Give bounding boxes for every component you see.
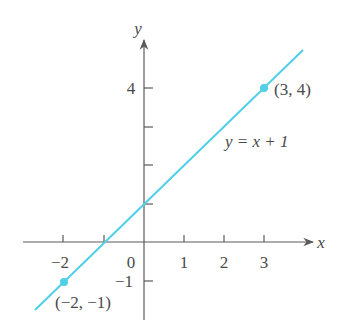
y-tick-label-4: 4: [127, 79, 136, 98]
x-tick-label-1: 1: [180, 253, 189, 272]
x-axis-label: x: [316, 233, 325, 252]
y-axis-label: y: [132, 19, 142, 38]
x-ticks: [63, 235, 264, 242]
point-label-3-4: (3, 4): [274, 80, 311, 99]
point-neg2-neg1: [60, 278, 68, 286]
y-tick-label-neg1: −1: [115, 272, 133, 291]
point-3-4: [260, 84, 268, 92]
equation-label: y = x + 1: [223, 132, 289, 151]
line-graph: y x −2 0 1 2 3 4 −1 (3, 4) y = x + 1 (−2…: [0, 0, 344, 336]
x-tick-label-0: 0: [127, 253, 136, 272]
y-ticks: [144, 88, 153, 281]
x-tick-label-neg2: −2: [51, 253, 69, 272]
point-label-neg2-neg1: (−2, −1): [55, 293, 111, 312]
x-tick-label-3: 3: [260, 253, 269, 272]
x-tick-label-2: 2: [220, 253, 229, 272]
